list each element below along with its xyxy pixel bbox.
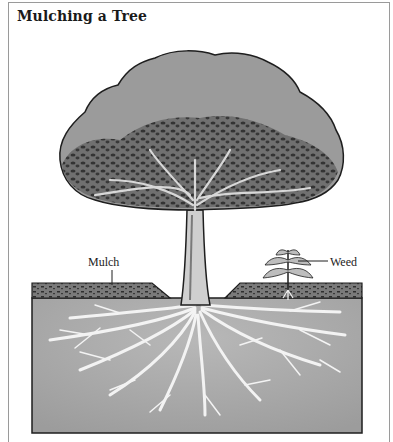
mulch-label: Mulch <box>88 255 119 270</box>
tree-canopy <box>60 51 344 210</box>
weed-label: Weed <box>330 255 357 270</box>
tree-trunk <box>181 210 210 305</box>
